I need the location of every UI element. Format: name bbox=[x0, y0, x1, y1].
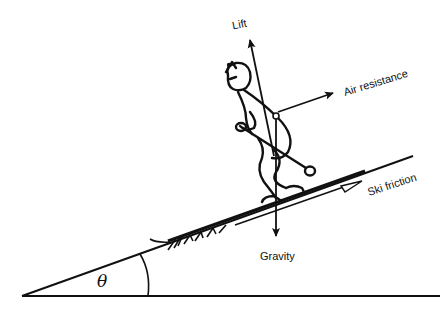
slope-line bbox=[22, 156, 413, 296]
force-origin-point bbox=[273, 113, 279, 119]
air-resistance-label: Air resistance bbox=[342, 67, 409, 98]
angle-label: θ bbox=[97, 271, 107, 291]
air-resistance-arrow bbox=[278, 93, 333, 112]
skier-figure bbox=[226, 62, 315, 202]
ski-friction-label: Ski friction bbox=[366, 171, 418, 198]
ski bbox=[168, 171, 365, 241]
skier-forces-diagram: θ bbox=[0, 0, 447, 316]
lift-label: Lift bbox=[231, 17, 248, 32]
angle-arc bbox=[140, 254, 149, 296]
gravity-label: Gravity bbox=[260, 250, 295, 262]
